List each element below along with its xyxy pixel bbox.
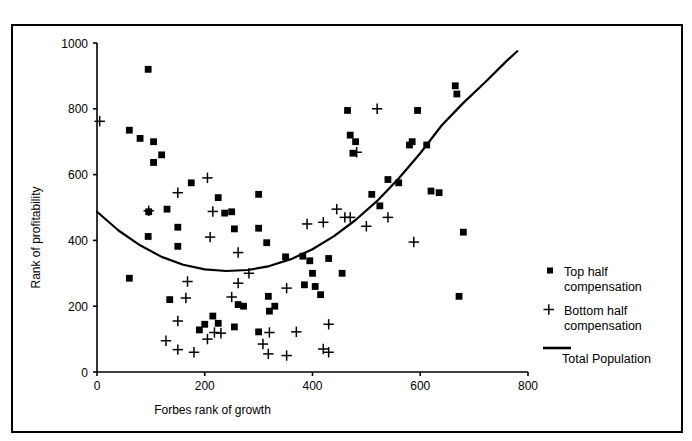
marker-square xyxy=(255,328,262,335)
x-tick-label: 0 xyxy=(94,379,101,393)
marker-square xyxy=(282,253,289,260)
marker-square xyxy=(145,233,152,240)
marker-square xyxy=(221,210,228,217)
marker-square xyxy=(263,239,270,246)
marker-square xyxy=(456,293,463,300)
legend-label: Bottom half xyxy=(564,304,628,318)
scatter-plot: 020040060080010000200400600800 Forbes ra… xyxy=(0,0,692,441)
marker-square xyxy=(376,202,383,209)
marker-square xyxy=(428,188,435,195)
marker-square xyxy=(309,270,316,277)
axes-group xyxy=(93,43,528,376)
marker-square xyxy=(137,135,144,142)
marker-square xyxy=(385,176,392,183)
marker-square xyxy=(174,243,181,250)
marker-square xyxy=(452,82,459,89)
marker-square xyxy=(126,275,133,282)
marker-square xyxy=(215,194,222,201)
x-tick-label: 800 xyxy=(518,379,538,393)
marker-square xyxy=(423,142,430,149)
marker-square xyxy=(344,107,351,114)
marker-square xyxy=(409,138,416,145)
legend: Top halfcompensationBottom halfcompensat… xyxy=(543,265,651,366)
tick-labels-group: 020040060080010000200400600800 xyxy=(61,37,538,394)
y-tick-label: 800 xyxy=(68,102,88,116)
marker-square xyxy=(150,159,157,166)
x-tick-label: 400 xyxy=(302,379,322,393)
marker-square xyxy=(215,320,222,327)
marker-square xyxy=(255,191,262,198)
y-tick-label: 200 xyxy=(68,300,88,314)
figure-container: Figure 3. Scatterplot of Forbes rank of … xyxy=(0,0,692,441)
marker-square xyxy=(228,208,235,215)
x-tick-label: 200 xyxy=(195,379,215,393)
marker-square xyxy=(188,179,195,186)
marker-square xyxy=(209,313,216,320)
marker-square xyxy=(240,303,247,310)
marker-square xyxy=(158,151,165,158)
marker-square xyxy=(271,303,278,310)
marker-square xyxy=(460,229,467,236)
marker-square xyxy=(339,270,346,277)
marker-square xyxy=(395,179,402,186)
marker-square xyxy=(453,91,460,98)
x-axis-title: Forbes rank of growth xyxy=(154,403,271,417)
x-tick-label: 600 xyxy=(410,379,430,393)
marker-square xyxy=(255,225,262,232)
marker-square xyxy=(312,283,319,290)
marker-square xyxy=(265,293,272,300)
marker-square xyxy=(352,138,359,145)
y-tick-label: 1000 xyxy=(61,37,88,51)
marker-square xyxy=(368,191,375,198)
legend-label: compensation xyxy=(564,280,642,294)
marker-square xyxy=(299,253,306,260)
marker-square xyxy=(347,132,354,139)
legend-label: Total Population xyxy=(562,352,651,366)
axis-titles-group: Forbes rank of growthRank of profitabili… xyxy=(29,186,271,417)
marker-square xyxy=(306,257,313,264)
marker-square xyxy=(150,138,157,145)
series-top-half-compensation xyxy=(126,66,467,335)
marker-square xyxy=(436,189,443,196)
marker-square xyxy=(174,224,181,231)
marker-square xyxy=(196,326,203,333)
legend-label: Top half xyxy=(564,265,608,279)
marker-square xyxy=(166,296,173,303)
marker-square xyxy=(231,225,238,232)
y-tick-label: 400 xyxy=(68,234,88,248)
marker-square xyxy=(414,107,421,114)
marker-square xyxy=(301,281,308,288)
legend-marker-square xyxy=(547,268,553,274)
marker-square xyxy=(317,291,324,298)
legend-label: compensation xyxy=(564,319,642,333)
marker-square xyxy=(231,324,238,331)
y-tick-label: 0 xyxy=(81,366,88,380)
marker-square xyxy=(145,66,152,73)
series-bottom-half-compensation xyxy=(94,104,418,361)
marker-square xyxy=(350,150,357,157)
y-tick-label: 600 xyxy=(68,168,88,182)
marker-square xyxy=(126,127,133,134)
marker-square xyxy=(164,206,171,213)
marker-square xyxy=(325,255,332,262)
y-axis-title: Rank of profitability xyxy=(29,186,43,288)
